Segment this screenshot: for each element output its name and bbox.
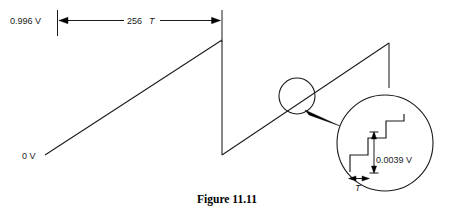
sawtooth-waveform-group: 0 V — [22, 40, 389, 161]
ramp-segment-1 — [45, 40, 222, 155]
detail-circle — [337, 95, 433, 191]
step-amplitude-arrow-up-icon — [371, 132, 376, 140]
step-period-arrow-left-icon — [349, 176, 357, 181]
callout-wedge-icon — [305, 110, 340, 126]
full-scale-voltage-label: 0.996 V — [10, 16, 41, 26]
dimension-annotation-group: 256 T 0.996 V — [10, 10, 222, 42]
detail-callout-group: 0.0039 V T — [337, 95, 433, 193]
step-amplitude-arrow-down-icon — [371, 166, 376, 174]
ramp-segment-2 — [222, 43, 389, 155]
callout-leader-group — [279, 78, 340, 126]
waveform-figure-svg: 256 T 0.996 V 0 V — [0, 0, 454, 215]
dimension-arrow-right-icon — [212, 17, 221, 24]
step-period-arrow-right-icon — [362, 176, 370, 181]
period-label-symbol: T — [149, 16, 156, 26]
zero-voltage-label: 0 V — [22, 151, 36, 161]
dimension-arrow-left-icon — [59, 17, 68, 24]
period-label-number: 256 — [127, 16, 142, 26]
step-voltage-label: 0.0039 V — [376, 155, 412, 165]
figure-caption: Figure 11.11 — [197, 193, 257, 206]
figure-container: 256 T 0.996 V 0 V — [0, 0, 454, 215]
